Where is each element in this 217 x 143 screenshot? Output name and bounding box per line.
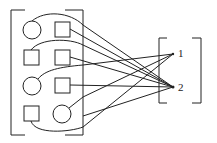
- node-1-label: 1: [178, 47, 184, 59]
- bipartite-diagram: 1 2: [0, 0, 217, 143]
- right-group-bracket-left: [159, 38, 167, 103]
- edge-d2-n1: [69, 54, 173, 108]
- shape-c1-circle: [23, 77, 41, 95]
- node-2-label: 2: [178, 81, 184, 93]
- left-group-bracket-right: [65, 10, 83, 135]
- edge-a1-n2: [32, 14, 173, 87]
- shape-b1-square: [24, 50, 39, 65]
- shape-d2-circle: [53, 105, 71, 123]
- shape-c2-square: [55, 78, 70, 93]
- shape-a1-circle: [23, 21, 41, 39]
- shape-d1-square: [24, 106, 39, 121]
- edge-d1-n1: [31, 54, 173, 131]
- node-2-point: [172, 86, 175, 89]
- right-group-bracket-right: [192, 38, 201, 103]
- shape-a2-square: [55, 22, 70, 37]
- shape-b2-square: [55, 50, 70, 65]
- node-1-point: [172, 53, 174, 55]
- edge-c2-n2: [70, 85, 173, 87]
